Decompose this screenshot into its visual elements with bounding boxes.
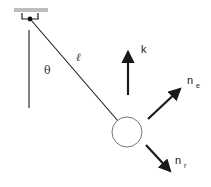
n-r-label: n: [175, 154, 181, 166]
pendulum-bob: [112, 117, 142, 147]
n-e-vector-arrow: [148, 89, 180, 119]
n-e-label: n: [187, 74, 193, 86]
ceiling-mount: [14, 8, 48, 21]
n-r-subscript: r: [184, 162, 187, 169]
k-label: k: [141, 43, 147, 55]
n-e-subscript: e: [196, 82, 200, 89]
length-label: ℓ: [76, 51, 81, 64]
n-r-vector-arrow: [146, 145, 170, 171]
ceiling-bar: [14, 8, 48, 12]
theta-label: θ: [44, 64, 51, 77]
pendulum-diagram: θ ℓ k n e n r: [0, 0, 211, 187]
